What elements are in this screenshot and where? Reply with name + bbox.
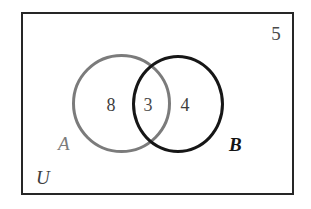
set-b-label: B — [229, 135, 242, 154]
region-count-outside-sets: 5 — [265, 24, 287, 43]
venn-diagram-canvas: 8 3 4 5 A B U — [0, 0, 311, 209]
set-a-label: A — [58, 134, 70, 153]
universal-set-label: U — [36, 168, 50, 187]
region-count-b-only: 4 — [174, 96, 196, 114]
region-count-a-only: 8 — [100, 96, 122, 114]
region-count-intersection: 3 — [137, 96, 159, 114]
